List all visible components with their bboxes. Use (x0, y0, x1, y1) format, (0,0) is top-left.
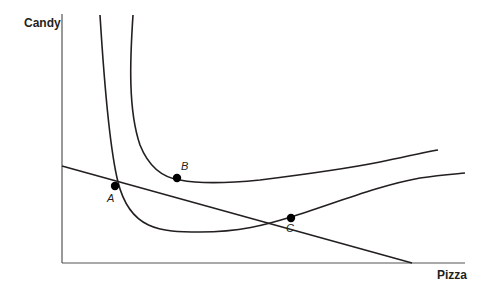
x-axis-label: Pizza (437, 268, 467, 282)
point-a-label: A (107, 192, 114, 204)
point-a (111, 182, 119, 190)
indifference-curve-1 (100, 15, 465, 232)
point-b-label: B (181, 160, 188, 172)
y-axis-label: Candy (24, 16, 61, 30)
point-b (173, 174, 181, 182)
diagram-canvas (0, 0, 488, 293)
point-c (287, 214, 295, 222)
indifference-curve-2 (131, 15, 438, 183)
point-c-label: C (286, 222, 294, 234)
budget-line (62, 166, 412, 263)
